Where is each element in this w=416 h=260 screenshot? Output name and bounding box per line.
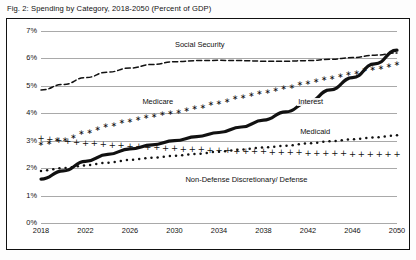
series-canvas: ∗∗∗∗∗∗∗∗∗∗∗∗∗∗∗∗∗∗∗∗∗∗∗∗∗∗∗∗∗∗∗∗∗∗∗∗∗∗∗∗… <box>41 31 397 223</box>
svg-text:+: + <box>224 145 231 155</box>
svg-text:+: + <box>37 133 44 143</box>
series-label-medicare: Medicare <box>141 98 174 106</box>
svg-text:+: + <box>340 148 347 158</box>
chart-svg: ∗∗∗∗∗∗∗∗∗∗∗∗∗∗∗∗∗∗∗∗∗∗∗∗∗∗∗∗∗∗∗∗∗∗∗∗∗∗∗∗… <box>41 31 397 223</box>
svg-text:+: + <box>260 146 267 156</box>
svg-text:∗: ∗ <box>329 73 335 82</box>
figure-caption: Fig. 2: Spending by Category, 2018-2050 … <box>7 4 211 13</box>
svg-text:+: + <box>91 138 98 148</box>
svg-text:+: + <box>278 147 285 157</box>
x-tick-label: 2022 <box>66 227 106 234</box>
series-label-interest: Interest <box>297 98 324 106</box>
x-tick-label: 2038 <box>244 227 284 234</box>
svg-text:+: + <box>349 149 356 159</box>
y-tick-label: 4% <box>11 109 37 116</box>
svg-text:+: + <box>358 149 365 159</box>
svg-text:+: + <box>135 141 142 151</box>
x-tick-label: 2034 <box>199 227 239 234</box>
svg-text:+: + <box>171 143 178 153</box>
svg-text:∗: ∗ <box>394 59 400 68</box>
svg-text:∗: ∗ <box>232 93 238 102</box>
svg-text:+: + <box>322 148 329 158</box>
svg-text:+: + <box>180 144 187 154</box>
svg-text:∗: ∗ <box>200 102 206 111</box>
svg-text:+: + <box>367 149 374 159</box>
svg-text:∗: ∗ <box>321 74 327 83</box>
svg-text:+: + <box>144 142 151 152</box>
svg-text:+: + <box>233 146 240 156</box>
series-medicare: ∗∗∗∗∗∗∗∗∗∗∗∗∗∗∗∗∗∗∗∗∗∗∗∗∗∗∗∗∗∗∗∗∗∗∗∗∗∗∗∗… <box>38 59 400 148</box>
chart-frame: 0%1%2%3%4%5%6%7% 20182022202620302034203… <box>6 18 410 250</box>
svg-text:∗: ∗ <box>103 121 109 130</box>
svg-text:∗: ∗ <box>248 90 254 99</box>
svg-text:+: + <box>313 148 320 158</box>
svg-text:∗: ∗ <box>94 124 100 133</box>
svg-text:∗: ∗ <box>119 117 125 126</box>
svg-text:∗: ∗ <box>240 92 246 101</box>
svg-text:+: + <box>64 136 71 146</box>
svg-text:+: + <box>198 144 205 154</box>
svg-text:+: + <box>109 140 116 150</box>
svg-text:+: + <box>162 143 169 153</box>
svg-text:∗: ∗ <box>337 71 343 80</box>
series-label-social-security: Social Security <box>174 41 226 49</box>
x-tick-label: 2046 <box>333 227 373 234</box>
plot-area: 0%1%2%3%4%5%6%7% 20182022202620302034203… <box>41 31 397 223</box>
y-tick-label: 3% <box>11 137 37 144</box>
svg-text:∗: ∗ <box>216 98 222 107</box>
svg-text:∗: ∗ <box>151 111 157 120</box>
svg-text:+: + <box>296 147 303 157</box>
svg-text:∗: ∗ <box>386 61 392 70</box>
svg-text:+: + <box>393 149 400 159</box>
svg-text:∗: ∗ <box>208 99 214 108</box>
series-interest <box>41 50 397 179</box>
svg-text:∗: ∗ <box>192 103 198 112</box>
svg-text:+: + <box>215 145 222 155</box>
svg-text:∗: ∗ <box>297 79 303 88</box>
svg-text:+: + <box>118 140 125 150</box>
svg-text:∗: ∗ <box>313 76 319 85</box>
x-tick-label: 2050 <box>377 227 416 234</box>
x-tick-label: 2018 <box>21 227 61 234</box>
y-tick-label: 5% <box>11 82 37 89</box>
svg-text:∗: ∗ <box>289 82 295 91</box>
svg-text:∗: ∗ <box>256 88 262 97</box>
y-tick-label: 1% <box>11 192 37 199</box>
svg-text:∗: ∗ <box>127 116 133 125</box>
svg-text:∗: ∗ <box>183 105 189 114</box>
svg-text:+: + <box>304 148 311 158</box>
svg-text:+: + <box>207 145 214 155</box>
y-tick-label: 7% <box>11 27 37 34</box>
svg-text:+: + <box>376 149 383 159</box>
svg-text:+: + <box>242 146 249 156</box>
svg-text:∗: ∗ <box>159 109 165 118</box>
svg-text:+: + <box>55 135 62 145</box>
figure-root: Fig. 2: Spending by Category, 2018-2050 … <box>0 0 416 260</box>
series-social-security <box>41 53 397 90</box>
x-tick-label: 2042 <box>288 227 328 234</box>
svg-text:+: + <box>100 139 107 149</box>
y-tick-label: 6% <box>11 54 37 61</box>
svg-text:∗: ∗ <box>272 85 278 94</box>
series-label-nondefense: Non-Defense Discretionary/ Defense <box>184 176 308 184</box>
svg-text:+: + <box>331 148 338 158</box>
y-tick-label: 2% <box>11 164 37 171</box>
svg-text:∗: ∗ <box>264 87 270 96</box>
svg-text:∗: ∗ <box>86 127 92 136</box>
svg-text:+: + <box>385 149 392 159</box>
svg-text:+: + <box>269 147 276 157</box>
svg-text:∗: ∗ <box>305 78 311 87</box>
svg-text:+: + <box>251 146 258 156</box>
x-tick-label: 2030 <box>155 227 195 234</box>
svg-text:+: + <box>189 144 196 154</box>
svg-text:∗: ∗ <box>224 96 230 105</box>
x-tick-label: 2026 <box>110 227 150 234</box>
svg-text:∗: ∗ <box>167 108 173 117</box>
svg-text:∗: ∗ <box>111 120 117 129</box>
svg-text:∗: ∗ <box>281 83 287 92</box>
svg-text:+: + <box>73 137 80 147</box>
svg-text:∗: ∗ <box>175 107 181 116</box>
series-label-medicaid: Medicaid <box>299 128 331 136</box>
svg-text:∗: ∗ <box>143 112 149 121</box>
gridline <box>41 223 397 224</box>
